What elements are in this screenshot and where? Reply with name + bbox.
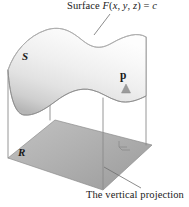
vector-letter-label: p: [120, 70, 126, 82]
surface-equation-prefix: Surface: [67, 0, 103, 11]
surface-equation-equals: =: [141, 0, 152, 11]
figure-canvas: [0, 0, 189, 207]
region-letter-label: R: [18, 147, 25, 158]
surface-letter-label: S: [22, 51, 28, 62]
surface-equation-label: Surface F(x, y, z) = c: [67, 1, 157, 12]
vertical-projection-figure: Surface F(x, y, z) = c S R p The vertica…: [0, 0, 189, 207]
projection-vector-p: [122, 84, 131, 145]
figure-caption: The vertical projection: [86, 190, 184, 201]
surface-equation-constant: c: [152, 0, 157, 11]
region-R-plane: [8, 120, 152, 190]
leader-line-surface: [94, 14, 110, 35]
